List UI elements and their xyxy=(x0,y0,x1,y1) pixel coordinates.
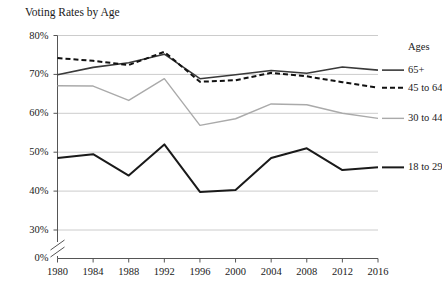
y-axis-tick-label: 40% xyxy=(0,185,49,196)
x-axis-tick-label: 1996 xyxy=(189,266,210,277)
x-axis-tick-label: 1988 xyxy=(118,266,139,277)
y-axis-tick-label: 80% xyxy=(0,30,49,41)
x-axis-tick-label: 1980 xyxy=(47,266,68,277)
series-line-30-to-44 xyxy=(58,79,379,126)
x-axis-tick-label: 2008 xyxy=(296,266,317,277)
y-axis-tick-label: 70% xyxy=(0,68,49,79)
legend-item-30-to-44: 30 to 44 xyxy=(408,112,442,124)
y-axis-tick-label: 60% xyxy=(0,107,49,118)
x-axis-tick-label: 2000 xyxy=(225,266,246,277)
y-axis-tick-label: 0% xyxy=(0,252,49,263)
legend-item-65-plus: 65+ xyxy=(408,64,424,76)
y-axis-tick-label: 50% xyxy=(0,146,49,157)
x-axis-tick-label: 2016 xyxy=(368,266,389,277)
x-axis-tick-label: 2004 xyxy=(261,266,282,277)
x-axis-tick-label: 2012 xyxy=(332,266,353,277)
x-axis-tick-label: 1984 xyxy=(83,266,104,277)
legend-item-18-to-29: 18 to 29 xyxy=(408,161,442,173)
y-axis-tick-label: 30% xyxy=(0,224,49,235)
x-axis-tick-label: 1992 xyxy=(154,266,175,277)
series-line-18-to-29 xyxy=(58,144,379,191)
legend-title: Ages xyxy=(408,41,430,53)
series-line-65 xyxy=(58,54,379,79)
legend-item-45-to-64: 45 to 64 xyxy=(408,82,442,94)
